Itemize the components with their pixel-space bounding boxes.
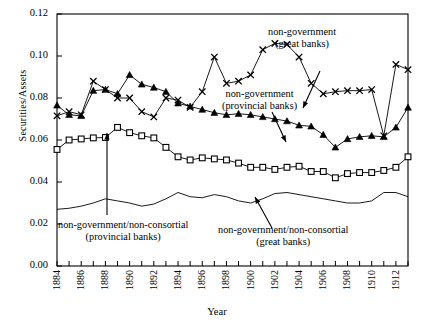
series-marker-square bbox=[345, 171, 351, 177]
annotation-arrow-nonconsortial-great-head bbox=[255, 197, 260, 204]
series-marker-square bbox=[139, 133, 145, 139]
series-marker-square bbox=[320, 169, 326, 175]
series-line-1 bbox=[57, 75, 408, 147]
y-tick-label: 0.12 bbox=[14, 7, 48, 18]
x-tick-label: 1904 bbox=[293, 270, 304, 290]
series-marker-x bbox=[260, 47, 266, 53]
series-marker-square bbox=[127, 130, 133, 136]
series-marker-triangle bbox=[392, 124, 399, 130]
series-marker-square bbox=[357, 170, 363, 176]
x-tick-label: 1902 bbox=[269, 270, 280, 290]
x-tick-label: 1912 bbox=[390, 270, 401, 290]
x-tick-label: 1896 bbox=[196, 270, 207, 290]
series-marker-square bbox=[260, 164, 266, 170]
x-tick-label: 1894 bbox=[172, 270, 183, 290]
series-marker-triangle bbox=[235, 110, 242, 116]
series-line-3 bbox=[57, 193, 408, 210]
x-tick-label: 1888 bbox=[99, 270, 110, 290]
x-tick-label: 1908 bbox=[341, 270, 352, 290]
series-marker-square bbox=[393, 164, 399, 170]
annotation-line-1: non-government/non-consortial bbox=[58, 219, 188, 230]
series-marker-x bbox=[211, 54, 217, 60]
series-marker-triangle bbox=[405, 104, 412, 110]
y-axis-title: Securities/Assets bbox=[17, 46, 28, 166]
series-marker-square bbox=[248, 164, 254, 170]
x-tick-label: 1910 bbox=[366, 270, 377, 290]
series-marker-square bbox=[236, 160, 242, 166]
series-marker-triangle bbox=[368, 132, 375, 138]
series-marker-square bbox=[224, 157, 230, 163]
annotation-line-1: non-government/non-consortial bbox=[218, 224, 348, 235]
series-marker-square bbox=[308, 169, 314, 175]
series-marker-square bbox=[163, 144, 169, 150]
series-marker-square bbox=[405, 154, 411, 160]
series-marker-square bbox=[211, 156, 217, 162]
annotation-line-2: (great banks) bbox=[275, 38, 329, 49]
series-marker-triangle bbox=[296, 122, 303, 128]
x-axis-title: Year bbox=[0, 306, 434, 317]
series-marker-square bbox=[272, 167, 278, 173]
annotation-line-2: (great banks) bbox=[256, 236, 310, 247]
annotation-line-1: non-government bbox=[226, 88, 294, 99]
annotation-nonconsortial-provincial: non-government/non-consortial (provincia… bbox=[58, 219, 188, 242]
x-tick-label: 1906 bbox=[317, 270, 328, 290]
series-marker-x bbox=[139, 108, 145, 114]
series-marker-square bbox=[332, 175, 338, 181]
series-marker-square bbox=[175, 154, 181, 160]
annotation-arrow-nongov-provincial-head bbox=[281, 135, 286, 142]
y-tick-label: 0.00 bbox=[14, 259, 48, 270]
x-tick-label: 1892 bbox=[148, 270, 159, 290]
series-marker-square bbox=[296, 163, 302, 169]
series-marker-triangle bbox=[114, 90, 121, 96]
series-line-2 bbox=[57, 127, 408, 177]
series-marker-square bbox=[54, 147, 60, 153]
series-marker-x bbox=[90, 78, 96, 84]
annotation-nongov-provincial: non-government (provincial banks) bbox=[222, 88, 297, 111]
series-marker-square bbox=[66, 137, 72, 143]
y-tick-label: 0.02 bbox=[14, 217, 48, 228]
series-marker-triangle bbox=[126, 72, 133, 78]
annotation-line-2: (provincial banks) bbox=[222, 100, 297, 111]
series-marker-square bbox=[78, 136, 84, 142]
series-marker-square bbox=[151, 135, 157, 141]
series-marker-square bbox=[369, 170, 375, 176]
chart-figure: Securities/Assets Year 0.000.020.040.060… bbox=[0, 0, 434, 324]
annotation-nonconsortial-great: non-government/non-consortial (great ban… bbox=[218, 224, 348, 247]
series-marker-square bbox=[284, 164, 290, 170]
y-tick-label: 0.06 bbox=[14, 133, 48, 144]
series-marker-triangle bbox=[138, 81, 145, 87]
annotation-line-1: non-government bbox=[268, 26, 336, 37]
annotation-nongov-great: non-government (great banks) bbox=[268, 26, 336, 49]
x-tick-label: 1886 bbox=[75, 270, 86, 290]
series-marker-square bbox=[187, 157, 193, 163]
series-marker-x bbox=[151, 114, 157, 120]
series-marker-x bbox=[247, 72, 253, 78]
series-marker-triangle bbox=[54, 102, 61, 108]
x-tick-label: 1900 bbox=[245, 270, 256, 290]
series-marker-square bbox=[381, 168, 387, 174]
series-marker-x bbox=[199, 89, 205, 95]
x-tick-label: 1890 bbox=[124, 270, 135, 290]
x-tick-label: 1898 bbox=[220, 270, 231, 290]
series-marker-x bbox=[296, 54, 302, 60]
series-marker-square bbox=[199, 155, 205, 161]
series-marker-square bbox=[90, 135, 96, 141]
y-tick-label: 0.08 bbox=[14, 91, 48, 102]
series-marker-square bbox=[115, 125, 121, 131]
y-tick-label: 0.10 bbox=[14, 49, 48, 60]
series-marker-triangle bbox=[320, 131, 327, 137]
annotation-line-2: (provincial banks) bbox=[86, 231, 161, 242]
x-tick-label: 1884 bbox=[51, 270, 62, 290]
y-tick-label: 0.04 bbox=[14, 175, 48, 186]
series-marker-triangle bbox=[163, 88, 170, 94]
annotation-arrow-nongov-great-head bbox=[303, 101, 308, 108]
